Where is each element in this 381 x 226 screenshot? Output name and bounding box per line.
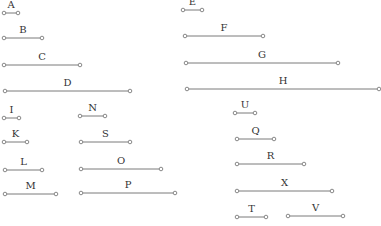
segment-a: A [2, 0, 20, 15]
segment-p: P [79, 179, 177, 195]
end-endpoint-circle-icon [200, 8, 204, 12]
end-endpoint-circle-icon [330, 189, 334, 193]
start-endpoint-circle-icon [79, 140, 83, 144]
start-endpoint-circle-icon [185, 87, 189, 91]
segment-label: C [38, 51, 46, 62]
segment-label: L [20, 156, 27, 167]
segment-o: O [79, 155, 163, 171]
segment-e: E [181, 0, 204, 12]
start-endpoint-circle-icon [79, 167, 83, 171]
start-endpoint-circle-icon [3, 192, 7, 196]
segment-label: E [189, 0, 196, 7]
segment-label: R [267, 150, 275, 161]
end-endpoint-circle-icon [128, 140, 132, 144]
segment-label: X [281, 177, 289, 188]
segment-label: V [311, 202, 320, 213]
segment-label: A [6, 0, 15, 10]
start-endpoint-circle-icon [3, 168, 7, 172]
segment-v: V [286, 202, 345, 218]
end-endpoint-circle-icon [40, 168, 44, 172]
segment-c: C [2, 51, 82, 67]
start-endpoint-circle-icon [2, 140, 6, 144]
start-endpoint-circle-icon [183, 34, 187, 38]
segment-s: S [79, 128, 132, 144]
start-endpoint-circle-icon [3, 89, 7, 93]
segment-d: D [3, 77, 132, 93]
segment-r: R [235, 150, 306, 166]
segment-q: Q [235, 125, 276, 141]
segment-n: N [78, 102, 107, 118]
segment-m: M [3, 180, 58, 196]
segment-label: O [117, 155, 125, 166]
end-endpoint-circle-icon [341, 214, 345, 218]
end-endpoint-circle-icon [128, 89, 132, 93]
segment-label: G [258, 49, 266, 60]
end-endpoint-circle-icon [272, 137, 276, 141]
end-endpoint-circle-icon [78, 63, 82, 67]
start-endpoint-circle-icon [184, 61, 188, 65]
end-endpoint-circle-icon [253, 111, 257, 115]
start-endpoint-circle-icon [235, 162, 239, 166]
end-endpoint-circle-icon [103, 114, 107, 118]
start-endpoint-circle-icon [235, 215, 239, 219]
start-endpoint-circle-icon [233, 111, 237, 115]
segment-label: D [63, 77, 71, 88]
end-endpoint-circle-icon [173, 191, 177, 195]
segment-label: F [221, 22, 228, 33]
segment-k: K [2, 128, 29, 144]
start-endpoint-circle-icon [79, 191, 83, 195]
segment-f: F [183, 22, 265, 38]
start-endpoint-circle-icon [286, 214, 290, 218]
segment-label: I [10, 104, 14, 115]
end-endpoint-circle-icon [264, 215, 268, 219]
end-endpoint-circle-icon [54, 192, 58, 196]
end-endpoint-circle-icon [25, 140, 29, 144]
segment-length-diagram: ABCDEFGHIKLMNSOPUQRXTV [0, 0, 381, 226]
start-endpoint-circle-icon [235, 189, 239, 193]
segment-label: T [248, 203, 255, 214]
end-endpoint-circle-icon [336, 61, 340, 65]
segment-label: N [88, 102, 97, 113]
segment-label: H [279, 75, 288, 86]
segment-x: X [235, 177, 334, 193]
segment-label: K [12, 128, 20, 139]
segment-b: B [2, 24, 44, 40]
end-endpoint-circle-icon [159, 167, 163, 171]
end-endpoint-circle-icon [377, 87, 381, 91]
segment-h: H [185, 75, 381, 91]
start-endpoint-circle-icon [2, 11, 6, 15]
end-endpoint-circle-icon [16, 11, 20, 15]
segment-i: I [2, 104, 21, 120]
diagram-svg: ABCDEFGHIKLMNSOPUQRXTV [0, 0, 381, 226]
segment-label: M [25, 180, 35, 191]
start-endpoint-circle-icon [2, 116, 6, 120]
end-endpoint-circle-icon [40, 36, 44, 40]
segment-label: B [19, 24, 26, 35]
start-endpoint-circle-icon [181, 8, 185, 12]
segment-label: U [241, 99, 249, 110]
segment-label: S [102, 128, 109, 139]
end-endpoint-circle-icon [302, 162, 306, 166]
segment-label: Q [251, 125, 259, 136]
start-endpoint-circle-icon [78, 114, 82, 118]
segment-t: T [235, 203, 268, 219]
start-endpoint-circle-icon [2, 63, 6, 67]
segment-l: L [3, 156, 44, 172]
segment-u: U [233, 99, 257, 115]
end-endpoint-circle-icon [261, 34, 265, 38]
start-endpoint-circle-icon [235, 137, 239, 141]
end-endpoint-circle-icon [17, 116, 21, 120]
segment-g: G [184, 49, 340, 65]
segment-label: P [125, 179, 132, 190]
start-endpoint-circle-icon [2, 36, 6, 40]
